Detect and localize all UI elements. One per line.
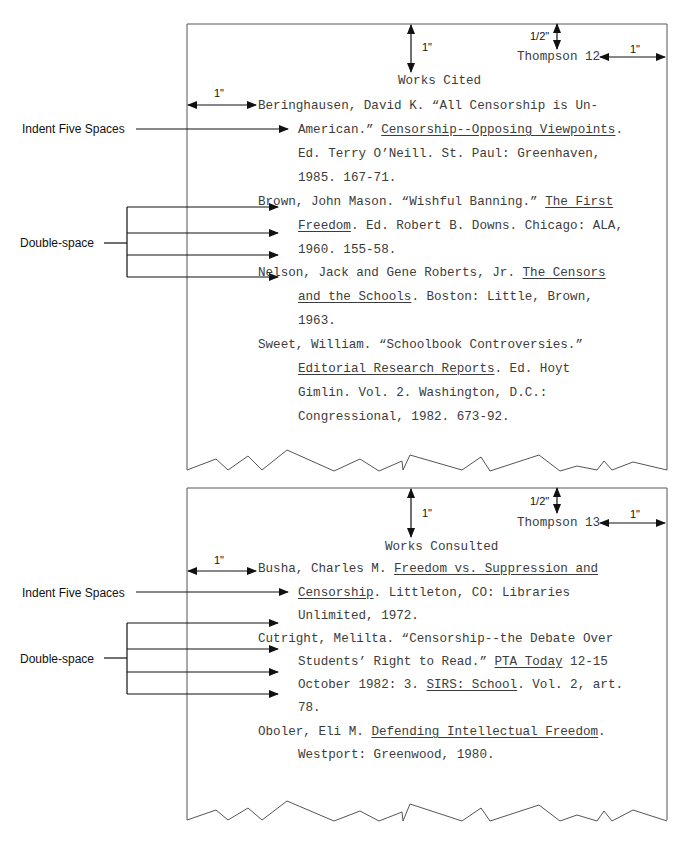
citation-line: 1985. 167-71. — [298, 172, 396, 185]
citation-title: and the Schools — [298, 290, 411, 304]
citation-text: Cutright, Melilta. “Censorship--the Deba… — [258, 632, 613, 646]
citation-title: PTA Today — [495, 655, 563, 669]
citation-line: 78. — [298, 702, 321, 715]
page-2-header: Thompson 13 — [517, 517, 600, 530]
citation-line: American.” Censorship--Opposing Viewpoin… — [298, 124, 623, 137]
citation-text: Students’ Right to Read.” — [298, 655, 495, 669]
citation-line: Freedom. Ed. Robert B. Downs. Chicago: A… — [298, 220, 623, 233]
label-left-margin: 1" — [214, 555, 224, 566]
citation-line: Censorship. Littleton, CO: Libraries — [298, 587, 570, 600]
label-top-margin: 1" — [422, 508, 432, 519]
citation-text: . Boston: Little, Brown, — [411, 290, 592, 304]
citation-text: . Vol. 2, art. — [517, 678, 623, 692]
page-1-title: Works Cited — [398, 75, 481, 88]
citation-line: Unlimited, 1972. — [298, 610, 419, 623]
citation-line: Editorial Research Reports. Ed. Hoyt — [298, 363, 570, 376]
citation-text: Nelson, Jack and Gene Roberts, Jr. — [258, 266, 523, 280]
page-1-header: Thompson 12 — [517, 51, 600, 64]
label-header-margin: 1/2" — [530, 31, 549, 42]
label-left-margin: 1" — [214, 88, 224, 99]
citation-text: 12-15 — [563, 655, 608, 669]
citation-line: Oboler, Eli M. Defending Intellectual Fr… — [258, 726, 606, 739]
citation-text: American.” — [298, 123, 381, 137]
citation-text: Congressional, 1982. 673-92. — [298, 410, 510, 424]
citation-text: Sweet, William. “Schoolbook Controversie… — [258, 338, 583, 352]
citation-text: . Ed. Hoyt — [495, 362, 571, 376]
citation-line: Cutright, Melilta. “Censorship--the Deba… — [258, 633, 613, 646]
citation-text: Oboler, Eli M. — [258, 725, 371, 739]
citation-title: SIRS: School — [426, 678, 517, 692]
label-indent-five-spaces: Indent Five Spaces — [22, 587, 125, 599]
citation-line: Brown, John Mason. “Wishful Banning.” Th… — [258, 196, 613, 209]
citation-text: Beringhausen, David K. “All Censorship i… — [258, 99, 598, 113]
citation-text: Brown, John Mason. “Wishful Banning.” — [258, 195, 545, 209]
citation-line: and the Schools. Boston: Little, Brown, — [298, 291, 593, 304]
label-double-space: Double-space — [20, 237, 94, 249]
citation-line: 1963. — [298, 315, 336, 328]
citation-line: Ed. Terry O’Neill. St. Paul: Greenhaven, — [298, 148, 600, 161]
citation-text: Busha, Charles M. — [258, 562, 394, 576]
citation-text: 1963. — [298, 314, 336, 328]
citation-title: Defending Intellectual Freedom — [371, 725, 598, 739]
label-right-margin: 1" — [630, 509, 640, 520]
citation-line: 1960. 155-58. — [298, 244, 396, 257]
label-top-margin: 1" — [422, 42, 432, 53]
label-double-space: Double-space — [20, 653, 94, 665]
citation-line: Busha, Charles M. Freedom vs. Suppressio… — [258, 563, 598, 576]
page-2-title: Works Consulted — [385, 541, 498, 554]
label-indent-five-spaces: Indent Five Spaces — [22, 123, 125, 135]
citation-title: Freedom — [298, 219, 351, 233]
citation-line: Congressional, 1982. 673-92. — [298, 411, 510, 424]
citation-text: Unlimited, 1972. — [298, 609, 419, 623]
citation-title: Freedom vs. Suppression and — [394, 562, 598, 576]
citation-text: 1985. 167-71. — [298, 171, 396, 185]
page-1-outline — [187, 24, 667, 471]
citation-text: 78. — [298, 701, 321, 715]
citation-line: Students’ Right to Read.” PTA Today 12-1… — [298, 656, 608, 669]
citation-text: . — [615, 123, 623, 137]
citation-line: Beringhausen, David K. “All Censorship i… — [258, 100, 598, 113]
citation-text: Westport: Greenwood, 1980. — [298, 748, 495, 762]
label-header-margin: 1/2" — [530, 496, 549, 507]
citation-text: . Littleton, CO: Libraries — [374, 586, 571, 600]
citation-line: Nelson, Jack and Gene Roberts, Jr. The C… — [258, 267, 606, 280]
citation-title: The First — [545, 195, 613, 209]
citation-text: October 1982: 3. — [298, 678, 426, 692]
citation-title: Editorial Research Reports — [298, 362, 495, 376]
citation-line: Sweet, William. “Schoolbook Controversie… — [258, 339, 583, 352]
citation-text: . — [598, 725, 606, 739]
citation-line: Gimlin. Vol. 2. Washington, D.C.: — [298, 387, 547, 400]
citation-title: Censorship — [298, 586, 374, 600]
citation-text: 1960. 155-58. — [298, 243, 396, 257]
citation-line: October 1982: 3. SIRS: School. Vol. 2, a… — [298, 679, 623, 692]
citation-text: . Ed. Robert B. Downs. Chicago: ALA, — [351, 219, 623, 233]
citation-title: Censorship--Opposing Viewpoints — [381, 123, 615, 137]
label-right-margin: 1" — [630, 44, 640, 55]
citation-text: Ed. Terry O’Neill. St. Paul: Greenhaven, — [298, 147, 600, 161]
citation-line: Westport: Greenwood, 1980. — [298, 749, 495, 762]
citation-text: Gimlin. Vol. 2. Washington, D.C.: — [298, 386, 547, 400]
citation-title: The Censors — [523, 266, 606, 280]
